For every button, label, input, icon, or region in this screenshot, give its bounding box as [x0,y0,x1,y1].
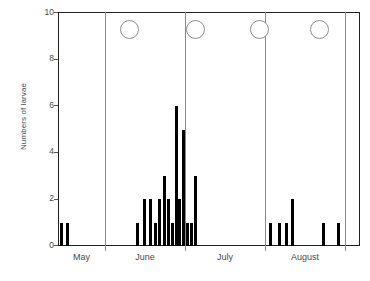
x-tick-mark-3 [265,246,266,251]
x-axis-label-august: August [265,252,345,262]
y-tick-label-6: 6 [32,101,54,110]
x-tick-mark-1 [105,246,106,251]
x-tick-mark-2 [185,246,186,251]
full-moon-icon-july [250,20,269,39]
y-tick-label-0: 0 [32,241,54,250]
larvae-bar-chart: Numbers of larvae 10 8 6 4 2 0 [0,0,370,281]
full-moon-icon-june [186,20,205,39]
moon-markers-layer [58,12,360,246]
plot-area [58,12,360,246]
y-axis-title: Numbers of larvae [19,52,28,182]
y-axis-tick-labels: 10 8 6 4 2 0 [28,0,54,281]
x-axis-label-june: June [105,252,185,262]
y-tick-label-4: 4 [32,147,54,156]
x-axis-label-may: May [58,252,105,262]
full-moon-icon-august [310,20,329,39]
x-tick-mark-4 [345,246,346,251]
y-tick-label-8: 8 [32,54,54,63]
y-tick-label-2: 2 [32,194,54,203]
x-axis-label-july: July [185,252,265,262]
full-moon-icon-may [120,20,139,39]
y-tick-label-10: 10 [32,8,54,17]
